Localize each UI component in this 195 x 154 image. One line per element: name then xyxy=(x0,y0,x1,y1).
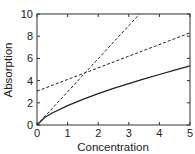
y-tick-label: 10 xyxy=(21,8,33,20)
x-tick-label: 2 xyxy=(95,127,101,139)
y-tick-label: 6 xyxy=(27,52,33,64)
x-tick-label: 0 xyxy=(34,127,40,139)
x-tick-label: 5 xyxy=(187,127,193,139)
y-tick-label: 8 xyxy=(27,30,33,42)
plot-border xyxy=(37,14,190,125)
line-chart: 0123450246810 Concentration Absorption xyxy=(0,0,195,154)
plot-frame xyxy=(37,14,190,125)
data-series xyxy=(37,14,190,125)
x-tick-label: 3 xyxy=(126,127,132,139)
series-line-0 xyxy=(37,66,190,125)
series-line-1 xyxy=(37,14,140,125)
x-tick-label: 4 xyxy=(156,127,162,139)
y-tick-label: 4 xyxy=(27,75,33,87)
x-tick-label: 1 xyxy=(65,127,71,139)
series-line-2 xyxy=(37,33,190,91)
axis-ticks: 0123450246810 xyxy=(21,8,193,139)
y-tick-label: 2 xyxy=(27,97,33,109)
y-axis-label: Absorption xyxy=(2,43,14,98)
x-axis-label: Concentration xyxy=(77,141,149,153)
y-tick-label: 0 xyxy=(27,119,33,131)
